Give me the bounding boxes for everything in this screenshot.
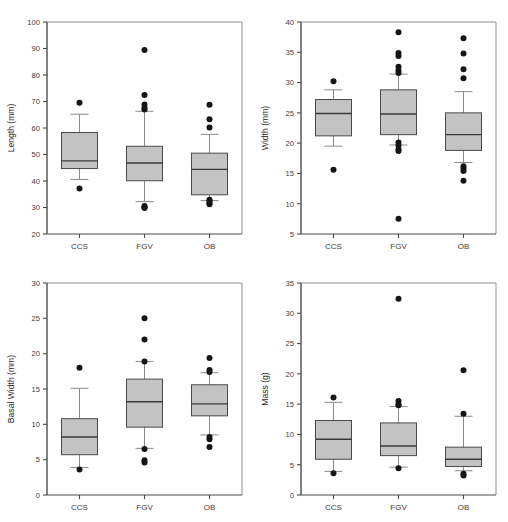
outlier-point [396,296,402,302]
outlier-point [207,444,213,450]
y-tick-label: 5 [290,461,294,470]
y-tick-label: 40 [286,18,294,27]
y-axis-title: Mass (g) [260,372,270,406]
x-tick-label: OB [458,242,470,251]
x-tick-label: CCS [325,242,342,251]
chart-canvas-3: 05101520253035Mass (g)CCSFGVOB [254,261,508,522]
y-tick-label: 30 [286,309,294,318]
outlier-point [77,100,83,106]
outlier-point [207,436,213,442]
box-iqr [316,100,352,136]
x-tick-label: OB [458,503,470,512]
y-tick-label: 20 [32,230,40,239]
outlier-point [396,148,402,154]
boxplot-group-ob [446,35,482,183]
boxplot-group-ccs [316,78,352,172]
outlier-point [142,106,148,112]
y-tick-label: 30 [32,203,40,212]
box-iqr [446,447,482,466]
outlier-point [142,315,148,321]
y-tick-label: 5 [36,455,40,464]
outlier-point [461,411,467,417]
boxplot-group-fgv [127,47,163,211]
chart-canvas-1: 510152025303540Width (mm)CCSFGVOB [254,0,508,261]
outlier-point [331,394,337,400]
y-tick-label: 10 [286,200,294,209]
boxplot-group-ccs [316,394,352,476]
x-tick-label: FGV [390,503,407,512]
outlier-point [142,205,148,211]
outlier-point [207,201,213,207]
x-tick-label: FGV [390,242,407,251]
y-tick-label: 70 [32,97,40,106]
outlier-point [207,102,213,108]
boxplot-group-fgv [127,315,163,465]
y-tick-label: 35 [286,48,294,57]
x-tick-label: FGV [136,242,153,251]
outlier-point [461,367,467,373]
y-tick-label: 20 [286,370,294,379]
x-tick-label: CCS [71,503,88,512]
outlier-point [207,355,213,361]
outlier-point [396,402,402,408]
boxplot-group-ob [446,367,482,478]
y-tick-label: 15 [32,385,40,394]
y-tick-label: 90 [32,44,40,53]
panel-length: 2030405060708090100Length (mm)CCSFGVOB [0,0,254,261]
boxplot-group-fgv [381,29,417,222]
panel-basal-width: 051015202530Basal Width (mm)CCSFGVOB [0,261,254,522]
outlier-point [461,50,467,56]
x-tick-label: CCS [71,242,88,251]
outlier-point [142,337,148,343]
panel-width: 510152025303540Width (mm)CCSFGVOB [254,0,508,261]
boxplot-group-ob [192,355,228,450]
y-axis-title: Length (mm) [6,104,16,153]
box-iqr [192,385,228,416]
y-tick-label: 10 [286,430,294,439]
outlier-point [396,53,402,59]
x-tick-label: CCS [325,503,342,512]
y-axis-title: Basal Width (mm) [6,355,16,423]
outlier-point [77,467,83,473]
y-tick-label: 80 [32,71,40,80]
boxplot-group-ob [192,102,228,208]
box-iqr [127,379,163,427]
outlier-point [461,35,467,41]
y-tick-label: 30 [32,279,40,288]
y-axis-title: Width (mm) [260,106,270,151]
outlier-point [142,92,148,98]
y-tick-label: 15 [286,400,294,409]
y-tick-label: 25 [286,339,294,348]
x-tick-label: FGV [136,503,153,512]
outlier-point [207,116,213,122]
box-iqr [381,90,417,135]
outlier-point [207,124,213,130]
outlier-point [461,75,467,81]
y-tick-label: 100 [27,18,40,27]
chart-canvas-0: 2030405060708090100Length (mm)CCSFGVOB [0,0,254,261]
outlier-point [331,78,337,84]
outlier-point [331,167,337,173]
y-tick-label: 5 [290,230,294,239]
outlier-point [396,29,402,35]
box-iqr [62,133,98,169]
outlier-point [77,185,83,191]
outlier-point [142,446,148,452]
outlier-point [207,369,213,375]
x-tick-label: OB [204,503,216,512]
y-tick-label: 30 [286,78,294,87]
outlier-point [396,216,402,222]
y-tick-label: 0 [36,491,40,500]
outlier-point [461,473,467,479]
outlier-point [396,465,402,471]
outlier-point [331,470,337,476]
outlier-point [396,70,402,76]
outlier-point [77,365,83,371]
box-iqr [192,153,228,195]
y-tick-label: 40 [32,177,40,186]
boxplot-group-ccs [62,365,98,473]
panel-mass: 05101520253035Mass (g)CCSFGVOB [254,261,508,522]
chart-canvas-2: 051015202530Basal Width (mm)CCSFGVOB [0,261,254,522]
y-tick-label: 35 [286,279,294,288]
outlier-point [461,66,467,72]
